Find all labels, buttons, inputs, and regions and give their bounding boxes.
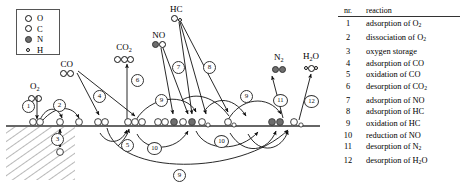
step-marker-7: 7 — [172, 61, 185, 74]
step-marker-10b: 10 — [214, 135, 229, 148]
row-nr: 8 — [338, 106, 358, 118]
table-row: 4 adsorption of CO — [338, 58, 460, 70]
row-nr: 12 — [338, 155, 358, 169]
reaction-table: nr. reaction 1 adsorption of O2 2 dissoc… — [338, 6, 460, 169]
step-marker-10a: 10 — [147, 142, 162, 155]
row-reaction: adsorption of CO — [366, 58, 424, 70]
row-nr: 2 — [338, 32, 358, 46]
row-reaction: dissociation of O2 — [366, 32, 426, 46]
step-marker-8: 8 — [203, 61, 216, 74]
row-nr: 5 — [338, 69, 358, 81]
row-reaction: desorption of CO2 — [366, 81, 427, 95]
row-nr: 4 — [338, 58, 358, 70]
row-reaction: adsorption of O2 — [366, 18, 421, 32]
step-marker-11: 11 — [273, 94, 288, 107]
table-row: 9 oxidation of HC — [338, 118, 460, 130]
row-nr: 10 — [338, 130, 358, 142]
row-reaction: adsorption of NO — [366, 95, 425, 107]
table-row: 6 desorption of CO2 — [338, 81, 460, 95]
table-rule — [338, 16, 460, 17]
table-header-row: nr. reaction — [338, 6, 460, 16]
step-marker-9b: 9 — [240, 90, 253, 103]
table-row: 3 oxygen storage — [338, 46, 460, 58]
substrate-hatching — [6, 127, 75, 180]
figure-canvas: O C N H O2 CO CO2 — [0, 0, 463, 183]
row-reaction: oxidation of CO — [366, 69, 420, 81]
step-marker-12: 12 — [304, 95, 319, 108]
row-reaction: desorption of H2O — [366, 155, 428, 169]
table-row: 7 adsorption of NO — [338, 95, 460, 107]
row-reaction: desorption of N2 — [366, 141, 421, 155]
row-reaction: adsorption of HC — [366, 106, 424, 118]
row-reaction: reduction of NO — [366, 130, 421, 142]
arrow-step-9-arc2 — [228, 101, 281, 120]
row-nr: 6 — [338, 81, 358, 95]
arrow-step-10c — [230, 131, 276, 149]
stored-oxygen-atom — [57, 149, 64, 156]
table-row: 11 desorption of N2 — [338, 141, 460, 155]
table-row: 8 adsorption of HC — [338, 106, 460, 118]
step-marker-3: 3 — [51, 133, 64, 146]
row-reaction: oxygen storage — [366, 46, 417, 58]
arrow-step-10a — [137, 131, 188, 147]
step-marker-5: 5 — [121, 139, 134, 152]
step-marker-9a: 9 — [155, 94, 168, 107]
arrow-step-10d — [248, 131, 288, 148]
table-row: 12 desorption of H2O — [338, 155, 460, 169]
step-marker-9c: 9 — [173, 169, 186, 182]
table-row: 1 adsorption of O2 — [338, 18, 460, 32]
row-nr: 1 — [338, 18, 358, 32]
table-row: 5 oxidation of CO — [338, 69, 460, 81]
row-nr: 7 — [338, 95, 358, 107]
table-row: 2 dissociation of O2 — [338, 32, 460, 46]
step-marker-1: 1 — [22, 100, 35, 113]
arrow-step-4b — [78, 71, 135, 116]
step-marker-6: 6 — [131, 74, 144, 87]
row-reaction: oxidation of HC — [366, 118, 420, 130]
step-marker-4: 4 — [93, 90, 106, 103]
row-nr: 9 — [338, 118, 358, 130]
step-marker-2: 2 — [53, 99, 66, 112]
row-nr: 3 — [338, 46, 358, 58]
row-nr: 11 — [338, 141, 358, 155]
table-header-reaction: reaction — [366, 6, 392, 15]
table-header-nr: nr. — [338, 6, 358, 15]
table-row: 10 reduction of NO — [338, 130, 460, 142]
arrow-step-9-arc3 — [204, 101, 246, 117]
